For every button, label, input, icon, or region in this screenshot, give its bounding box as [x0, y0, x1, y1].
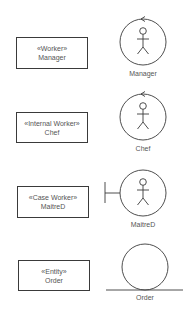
maitred-icon-label: MaitreD	[113, 221, 173, 228]
diagram-canvas	[0, 0, 192, 315]
worker-actor-icon[interactable]	[120, 17, 166, 66]
manager-icon-label: Manager	[113, 70, 173, 77]
entity-icon[interactable]	[106, 244, 183, 290]
internal-worker-actor-icon[interactable]	[120, 92, 166, 141]
chef-icon-label: Chef	[113, 145, 173, 152]
case-worker-boundary-icon[interactable]	[105, 170, 166, 216]
order-icon-label: Order	[115, 294, 175, 301]
